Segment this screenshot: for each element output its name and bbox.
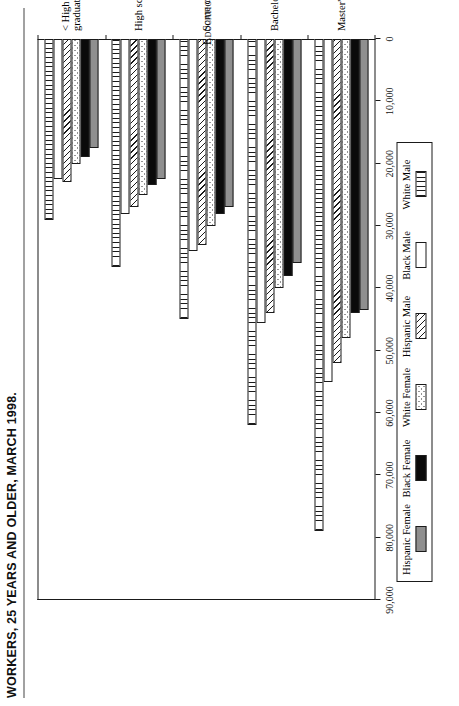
legend-label: Black Male [401,231,412,280]
bar-white-male [314,39,323,531]
bar-black-female [283,39,292,276]
dotted-swatch [415,385,426,411]
chart-canvas: WORKERS, 25 YEARS AND OLDER, MARCH 1998.… [0,0,459,706]
legend: Hispanic FemaleBlack FemaleWhite FemaleH… [396,142,432,582]
legend-entry-black-male[interactable]: Black Male [401,220,426,291]
solid-gray-swatch [415,527,426,553]
title-block: WORKERS, 25 YEARS AND OLDER, MARCH 1998. [4,8,24,698]
bar-hispanic-male [332,39,341,363]
value-tick-label: 40,000 [383,275,394,303]
bar-hispanic-male [62,39,71,182]
category-axis-title: Educational Attainment [37,39,375,40]
bar-hispanic-male [129,39,138,207]
value-tick-label: 20,000 [383,150,394,178]
title-rule [23,8,24,698]
legend-label: White Female [401,368,412,427]
bar-hispanic-female [292,39,301,263]
legend-entry-black-female[interactable]: Black Female [401,433,426,504]
vertical-lines-swatch [415,172,426,198]
bar-white-female [138,39,147,195]
bar-black-female [215,39,224,214]
category-label: Bachelor's degree [268,0,280,31]
category-label: < High school graduate [59,0,82,31]
bar-black-male [256,39,265,323]
value-tick-mark [375,537,380,538]
bar-hispanic-female [224,39,233,207]
value-tick-mark [375,474,380,475]
legend-entry-white-male[interactable]: White Male [401,149,426,220]
bars-layer [37,39,375,600]
bar-white-female [274,39,283,288]
legend-label: Black Female [401,439,412,497]
bar-white-male [247,39,256,425]
value-tick-mark [375,38,380,39]
legend-entry-white-female[interactable]: White Female [401,362,426,433]
value-tick-mark [375,350,380,351]
value-tick-mark [375,163,380,164]
value-tick-label: 60,000 [383,399,394,427]
diagonal-hatch-swatch [415,314,426,340]
bar-white-female [206,39,215,226]
value-tick-label: 0 [383,37,394,42]
value-tick-label: 80,000 [383,524,394,552]
bar-black-female [350,39,359,313]
bar-white-female [341,39,350,338]
category-label: High school graduate [133,0,145,31]
legend-label: White Male [401,160,412,210]
bar-hispanic-male [265,39,274,313]
bar-hispanic-female [89,39,98,148]
category-axis-title-text: Educational Attainment [200,0,212,45]
value-tick-mark [375,100,380,101]
value-tick-label: 10,000 [383,88,394,116]
empty-white-swatch [415,243,426,269]
value-tick-mark [375,225,380,226]
legend-entry-hispanic-female[interactable]: Hispanic Female [401,504,426,575]
bar-black-male [120,39,129,214]
legend-label: Hispanic Female [401,504,412,575]
bar-black-male [53,39,62,179]
value-tick-label: 90,000 [383,586,394,614]
solid-black-swatch [415,456,426,482]
value-tick-label: 50,000 [383,337,394,365]
bar-white-male [111,39,120,267]
bar-black-female [147,39,156,185]
bar-hispanic-male [197,39,206,245]
value-tick-mark [375,412,380,413]
bar-black-male [188,39,197,251]
legend-entry-hispanic-male[interactable]: Hispanic Male [401,291,426,362]
legend-label: Hispanic Male [401,296,412,358]
bar-hispanic-female [359,39,368,310]
bar-black-female [80,39,89,157]
bar-white-male [44,39,53,220]
value-tick-label: 70,000 [383,462,394,490]
bar-black-male [323,39,332,382]
bar-hispanic-female [156,39,165,179]
category-label: Master's degree [335,0,347,31]
bar-white-female [71,39,80,164]
value-tick-mark [375,287,380,288]
value-tick-mark [375,599,380,600]
chart-title: WORKERS, 25 YEARS AND OLDER, MARCH 1998. [4,8,20,698]
bar-white-male [179,39,188,320]
value-tick-label: 30,000 [383,212,394,240]
